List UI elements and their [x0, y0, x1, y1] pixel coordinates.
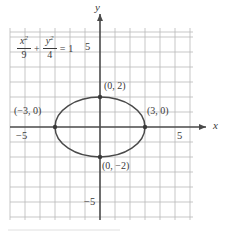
point-0-2	[98, 95, 102, 99]
y-term-denominator: 4	[45, 50, 54, 61]
point-label-0-2: (0, 2)	[104, 81, 126, 91]
equation-right-side: 1	[68, 43, 73, 54]
x-axis-label: x	[213, 120, 218, 131]
point-label-neg3-0: (−3, 0)	[14, 106, 41, 116]
point-label-0-neg2: (0, −2)	[102, 161, 129, 171]
x-term-numerator: x2	[18, 36, 30, 47]
x-term-fraction: x2 9	[17, 36, 31, 60]
point-0-neg2	[98, 155, 102, 159]
y-term-fraction: y2 4	[43, 36, 57, 60]
ellipse-equation: x2 9 + y2 4 = 1	[16, 36, 73, 60]
y-axis-label: y	[95, 2, 100, 13]
y-axis-arrowhead	[97, 14, 103, 21]
ellipse-figure: x2 9 + y2 4 = 1 y x 5 −5 −5 5 (0, 2) (−3…	[0, 0, 225, 236]
x-tick-label-positive-5: 5	[177, 131, 182, 142]
x-tick-label-negative-5: −5	[16, 131, 27, 142]
y-tick-label-negative-5: −5	[84, 197, 95, 208]
x-term-exponent: 2	[24, 34, 28, 42]
equals-sign: =	[60, 43, 66, 54]
x-axis-arrowhead	[199, 124, 206, 130]
y-term-numerator: y2	[44, 36, 56, 47]
point-label-3-0: (3, 0)	[147, 106, 169, 116]
plus-sign: +	[34, 43, 40, 54]
y-term-exponent: 2	[50, 34, 54, 42]
x-term-denominator: 9	[20, 50, 29, 61]
point-neg3-0	[53, 125, 57, 129]
y-tick-label-positive-5: 5	[85, 42, 90, 53]
point-3-0	[143, 125, 147, 129]
